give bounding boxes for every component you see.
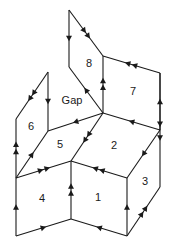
edge-M-L	[71, 161, 127, 178]
labels-layer: 8 7 Gap 6 5 2 3 4 1	[28, 57, 148, 204]
arrow-icon	[100, 78, 106, 84]
arrow-icon	[68, 183, 74, 189]
face-label-4: 4	[39, 192, 45, 204]
arrow-icon	[142, 150, 148, 156]
arrow-icon	[87, 131, 93, 137]
edge-Q-N	[127, 187, 160, 236]
arrow-icon	[157, 99, 163, 105]
arrow-icon	[45, 99, 51, 105]
edge-A-C	[69, 10, 103, 56]
arrow-icon	[125, 61, 131, 67]
arrow-icon	[37, 168, 43, 174]
arrow-icon	[28, 152, 34, 158]
edge-D-C	[103, 56, 160, 73]
face-label-8: 8	[86, 57, 92, 69]
arrow-icon	[66, 36, 72, 42]
arrow-icon	[100, 85, 106, 91]
puzzle-diagram: 8 7 Gap 6 5 2 3 4 1	[0, 0, 177, 248]
edges-layer	[16, 10, 160, 236]
arrow-icon	[129, 119, 135, 125]
arrow-icon	[142, 206, 148, 212]
edge-H-I	[16, 72, 48, 119]
arrow-icon	[44, 166, 50, 172]
face-label-3: 3	[142, 175, 148, 187]
arrow-icon	[83, 136, 89, 142]
arrow-icon	[96, 225, 102, 231]
arrow-icon	[40, 225, 46, 231]
arrow-icon	[80, 27, 86, 33]
arrow-icon	[132, 63, 138, 69]
arrow-icon	[157, 135, 163, 141]
arrow-icon	[13, 204, 19, 210]
face-label-gap: Gap	[62, 94, 83, 106]
arrow-icon	[84, 88, 90, 94]
face-label-6: 6	[28, 120, 34, 132]
arrow-icon	[32, 89, 38, 95]
face-label-1: 1	[95, 191, 101, 203]
arrow-icon	[68, 190, 74, 196]
arrow-icon	[99, 168, 105, 174]
arrow-icon	[13, 142, 19, 148]
arrow-icon	[28, 95, 34, 101]
arrow-icon	[13, 149, 19, 155]
face-label-2: 2	[111, 139, 117, 151]
arrow-icon	[124, 204, 130, 210]
arrow-icon	[84, 32, 90, 38]
arrow-icon	[92, 166, 98, 172]
face-label-7: 7	[130, 85, 136, 97]
arrow-icon	[157, 122, 163, 128]
arrow-icon	[138, 212, 144, 218]
edge-K-L	[16, 161, 71, 178]
face-label-5: 5	[57, 138, 63, 150]
